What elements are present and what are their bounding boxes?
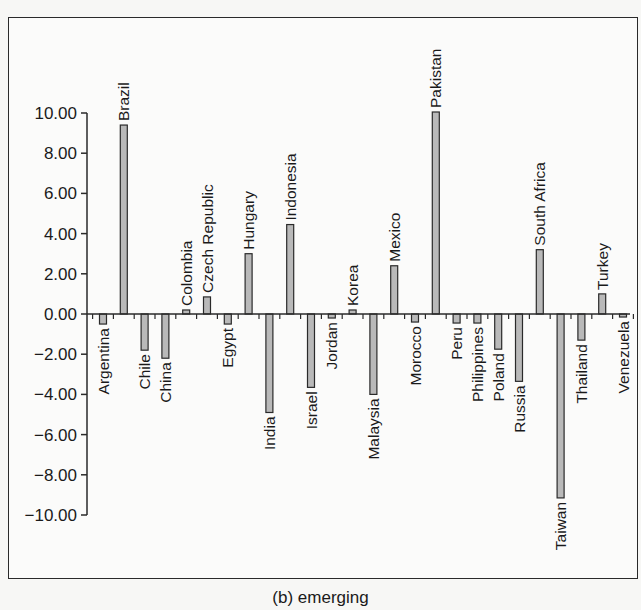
bar-egypt bbox=[224, 314, 231, 324]
bar-argentina bbox=[100, 314, 107, 324]
bar-label: Pakistan bbox=[427, 49, 444, 108]
bar-label: Korea bbox=[344, 264, 361, 306]
bar-label: India bbox=[261, 416, 278, 450]
bar-label: China bbox=[157, 362, 174, 403]
y-tick-label: 6.00 bbox=[44, 184, 77, 203]
bar-label: Brazil bbox=[115, 82, 132, 121]
bar-label: Philippines bbox=[469, 327, 486, 402]
bar-label: Indonesia bbox=[282, 153, 299, 221]
bar-chile bbox=[141, 314, 148, 350]
bar-label: Israel bbox=[303, 391, 320, 429]
bar-morocco bbox=[412, 314, 419, 322]
bar-chart: 10.008.006.004.002.000.00−2.00−4.00−6.00… bbox=[0, 0, 641, 610]
bar-south-africa bbox=[536, 250, 543, 314]
chart-caption: (b) emerging bbox=[0, 588, 641, 608]
bar-poland bbox=[495, 314, 502, 349]
bar-hungary bbox=[245, 254, 252, 314]
y-tick-label: −8.00 bbox=[34, 466, 77, 485]
bar-peru bbox=[453, 314, 460, 323]
bar-mexico bbox=[391, 266, 398, 314]
bar-label: Venezuela bbox=[615, 321, 632, 394]
bar-israel bbox=[308, 314, 315, 387]
bar-label: Chile bbox=[136, 354, 153, 389]
bar-label: Malaysia bbox=[365, 398, 382, 460]
bar-malaysia bbox=[370, 314, 377, 394]
y-tick-label: −6.00 bbox=[34, 426, 77, 445]
bar-china bbox=[162, 314, 169, 358]
bar-turkey bbox=[599, 294, 606, 314]
bar-label: Colombia bbox=[178, 240, 195, 306]
bar-label: Turkey bbox=[594, 243, 611, 290]
y-tick-label: −2.00 bbox=[34, 345, 77, 364]
bar-brazil bbox=[120, 125, 127, 314]
bar-taiwan bbox=[557, 314, 564, 498]
y-tick-label: −4.00 bbox=[34, 385, 77, 404]
bar-russia bbox=[516, 314, 523, 381]
bar-label: Morocco bbox=[407, 326, 424, 385]
bar-label: Mexico bbox=[386, 213, 403, 262]
bar-pakistan bbox=[432, 112, 439, 314]
y-tick-label: 0.00 bbox=[44, 305, 77, 324]
bar-label: Egypt bbox=[219, 327, 236, 367]
bar-label: Hungary bbox=[240, 191, 257, 250]
y-tick-label: 2.00 bbox=[44, 265, 77, 284]
bar-label: South Africa bbox=[531, 162, 548, 246]
bar-philippines bbox=[474, 314, 481, 323]
bar-indonesia bbox=[287, 225, 294, 314]
y-tick-label: 4.00 bbox=[44, 225, 77, 244]
y-tick-label: 10.00 bbox=[34, 104, 77, 123]
bar-label: Czech Republic bbox=[199, 184, 216, 293]
bar-label: Russia bbox=[511, 385, 528, 433]
bar-label: Taiwan bbox=[552, 502, 569, 550]
bar-label: Jordan bbox=[323, 322, 340, 369]
bar-czech-republic bbox=[204, 297, 211, 314]
bar-label: Peru bbox=[448, 327, 465, 360]
bar-label: Thailand bbox=[573, 344, 590, 403]
bar-thailand bbox=[578, 314, 585, 340]
bar-label: Poland bbox=[490, 353, 507, 401]
y-tick-label: −10.00 bbox=[25, 506, 77, 525]
bar-label: Argentina bbox=[95, 328, 112, 395]
bar-india bbox=[266, 314, 273, 412]
y-tick-label: 8.00 bbox=[44, 144, 77, 163]
